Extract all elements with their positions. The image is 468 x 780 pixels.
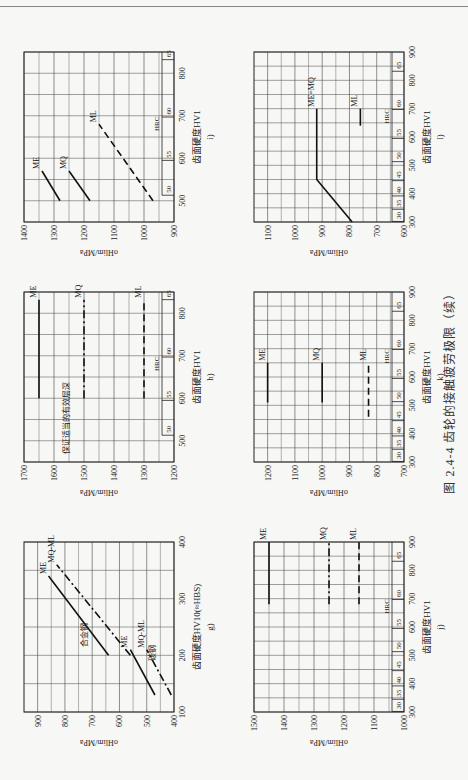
svg-text:55: 55: [165, 390, 173, 398]
svg-text:600: 600: [408, 621, 417, 633]
svg-text:1500: 1500: [80, 465, 89, 481]
svg-text:700: 700: [373, 225, 382, 237]
svg-text:900: 900: [408, 536, 417, 548]
chart-svg: 1200130014001500160017005006007008005055…: [18, 282, 244, 500]
svg-text:1100: 1100: [110, 225, 119, 241]
svg-text:55: 55: [395, 368, 403, 376]
svg-text:齿面硬度HV1: 齿面硬度HV1: [191, 110, 202, 164]
svg-text:1000: 1000: [318, 465, 327, 481]
svg-text:55: 55: [395, 128, 403, 136]
svg-text:1700: 1700: [20, 465, 29, 481]
svg-text:齿面硬度HV1: 齿面硬度HV1: [421, 110, 432, 164]
svg-text:400: 400: [178, 536, 187, 548]
svg-text:500: 500: [408, 649, 417, 661]
svg-text:50: 50: [395, 392, 403, 400]
svg-text:30: 30: [395, 451, 403, 459]
chart-g: 400500600700800900100200300400MEMQ-MLMEM…: [18, 532, 248, 750]
chart-h: 1200130014001500160017005006007008005055…: [18, 282, 248, 500]
svg-text:MQ-ML: MQ-ML: [47, 535, 56, 563]
svg-text:30: 30: [395, 701, 403, 709]
svg-text:ML: ML: [134, 286, 143, 298]
svg-text:65: 65: [165, 50, 173, 58]
svg-text:1200: 1200: [264, 465, 273, 481]
svg-text:σHlim/MPa: σHlim/MPa: [310, 248, 349, 257]
svg-text:900: 900: [408, 286, 417, 298]
svg-text:齿面硬度HV1: 齿面硬度HV1: [421, 350, 432, 404]
svg-text:g): g): [205, 623, 215, 631]
svg-text:1300: 1300: [140, 465, 149, 481]
svg-text:900: 900: [170, 225, 179, 237]
rotated-figure: 400500600700800900100200300400MEMQ-MLMEM…: [0, 0, 468, 780]
svg-text:合金钢: 合金钢: [79, 623, 89, 647]
svg-text:ME: ME: [258, 349, 267, 361]
svg-text:600: 600: [178, 152, 187, 164]
svg-text:σHlim/MPa: σHlim/MPa: [310, 738, 349, 747]
svg-text:60: 60: [395, 100, 403, 108]
svg-text:600: 600: [408, 131, 417, 143]
svg-text:ME: ME: [120, 636, 129, 648]
figure-caption: 图 2.4-4 齿轮的接触疲劳极限（续）: [440, 0, 458, 780]
svg-text:ME: ME: [39, 562, 48, 574]
svg-text:HRC: HRC: [153, 116, 161, 131]
svg-text:300: 300: [408, 216, 417, 228]
svg-text:800: 800: [373, 465, 382, 477]
svg-text:ML: ML: [89, 110, 98, 122]
svg-text:齿面硬度HV1: 齿面硬度HV1: [191, 350, 202, 404]
svg-text:700: 700: [408, 103, 417, 115]
svg-text:40: 40: [395, 186, 403, 194]
svg-text:35: 35: [395, 199, 403, 207]
svg-text:1600: 1600: [50, 465, 59, 481]
chart-svg: 1000110012001300140015003004005006007008…: [248, 532, 468, 750]
svg-text:35: 35: [395, 689, 403, 697]
svg-text:50: 50: [395, 152, 403, 160]
svg-text:30: 30: [395, 211, 403, 219]
svg-text:800: 800: [345, 225, 354, 237]
svg-text:σHlim/MPa: σHlim/MPa: [80, 738, 119, 747]
svg-text:300: 300: [408, 456, 417, 468]
svg-text:900: 900: [345, 465, 354, 477]
svg-text:500: 500: [143, 715, 152, 727]
svg-text:1000: 1000: [140, 225, 149, 241]
chart-j: 1000110012001300140015003004005006007008…: [248, 532, 468, 750]
svg-text:ME: ME: [32, 157, 41, 169]
chart-i: 9001000110012001300140050060070080050556…: [18, 42, 248, 260]
svg-text:600: 600: [408, 371, 417, 383]
chart-k: 7008009001000110012003004005006007008009…: [248, 282, 468, 500]
svg-text:65: 65: [395, 551, 403, 559]
svg-text:齿面硬度HV10(≈HBS): 齿面硬度HV10(≈HBS): [191, 584, 202, 670]
svg-text:700: 700: [178, 350, 187, 362]
svg-text:100: 100: [178, 706, 187, 718]
svg-text:σHlim/MPa: σHlim/MPa: [310, 488, 349, 497]
svg-text:HRC: HRC: [153, 356, 161, 371]
series-line-me: [42, 171, 60, 201]
series-line-mq: [69, 171, 90, 201]
svg-text:HRC: HRC: [383, 599, 391, 614]
svg-text:500: 500: [178, 435, 187, 447]
svg-text:300: 300: [408, 706, 417, 718]
svg-text:HRC: HRC: [383, 349, 391, 364]
svg-text:1200: 1200: [340, 715, 349, 731]
svg-text:60: 60: [395, 590, 403, 598]
svg-text:35: 35: [395, 439, 403, 447]
chart-svg: 9001000110012001300140050060070080050556…: [18, 42, 244, 260]
svg-text:45: 45: [395, 411, 403, 419]
svg-text:65: 65: [395, 61, 403, 69]
svg-text:200: 200: [178, 649, 187, 661]
svg-text:900: 900: [408, 46, 417, 58]
svg-text:MQ-ML: MQ-ML: [137, 620, 146, 648]
svg-text:900: 900: [34, 715, 43, 727]
svg-text:300: 300: [178, 593, 187, 605]
svg-text:1100: 1100: [291, 465, 300, 481]
svg-text:600: 600: [178, 392, 187, 404]
chart-svg: 6007008009001000110030040050060070080090…: [248, 42, 468, 260]
svg-text:500: 500: [178, 195, 187, 207]
svg-text:ML: ML: [349, 528, 358, 540]
svg-text:1500: 1500: [250, 715, 259, 731]
svg-text:1400: 1400: [20, 225, 29, 241]
svg-text:800: 800: [178, 67, 187, 79]
svg-text:1200: 1200: [80, 225, 89, 241]
svg-text:800: 800: [408, 564, 417, 576]
svg-text:HRC: HRC: [383, 109, 391, 124]
svg-text:σHlim/MPa: σHlim/MPa: [80, 248, 119, 257]
svg-text:700: 700: [178, 110, 187, 122]
